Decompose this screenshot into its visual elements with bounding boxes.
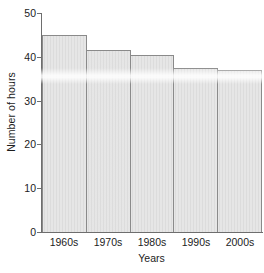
plot-area [41,13,262,232]
y-axis-tick-labels: 01020304050 [14,0,36,273]
x-axis-line [41,232,263,233]
bar [217,70,262,232]
x-tick-label: 1990s [174,236,218,248]
y-tick-mark [37,57,42,58]
x-axis-title: Years [41,252,262,264]
y-tick-label: 40 [14,52,36,62]
y-tick-label: 50 [14,8,36,18]
bar [86,50,131,232]
y-tick-label: 20 [14,139,36,149]
bar [173,68,218,232]
y-tick-label: 10 [14,183,36,193]
y-tick-label: 30 [14,96,36,106]
bar-chart-figure: Number of hours 01020304050 1960s1970s19… [0,0,264,273]
x-axis-tick-labels: 1960s1970s1980s1990s2000s [42,236,262,248]
y-tick-label: 0 [14,227,36,237]
y-tick-mark [37,188,42,189]
y-tick-mark [37,144,42,145]
bar [42,35,87,232]
y-tick-mark [37,101,42,102]
bar [130,55,175,232]
x-tick-label: 1980s [130,236,174,248]
x-tick-label: 1960s [42,236,86,248]
x-tick-label: 1970s [86,236,130,248]
y-tick-mark [37,13,42,14]
bar-series [42,13,262,232]
x-tick-label: 2000s [218,236,262,248]
